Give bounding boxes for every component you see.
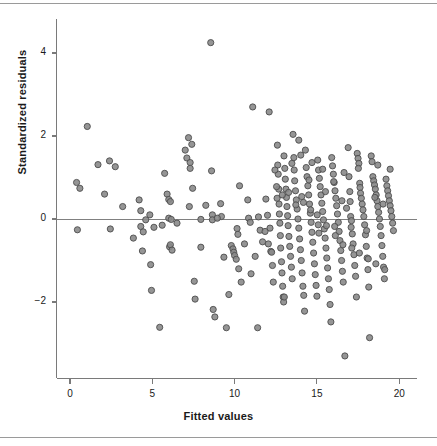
- scatter-point: [390, 228, 396, 234]
- scatter-point: [292, 188, 298, 194]
- scatter-point: [352, 262, 358, 268]
- scatter-point: [273, 184, 279, 190]
- scatter-point: [269, 249, 275, 255]
- scatter-point: [355, 165, 361, 171]
- scatter-point: [343, 205, 349, 211]
- x-axis-tick-label: 5: [140, 388, 164, 399]
- scatter-point: [363, 243, 369, 249]
- scatter-point: [298, 257, 304, 263]
- scatter-point: [290, 131, 296, 137]
- scatter-point: [182, 147, 188, 153]
- x-axis-tick-label: 15: [305, 388, 329, 399]
- scatter-point: [379, 242, 385, 248]
- x-axis-tick-label: 20: [387, 388, 411, 399]
- scatter-point: [292, 178, 298, 184]
- scatter-point: [285, 189, 291, 195]
- scatter-point: [198, 216, 204, 222]
- scatter-point: [274, 142, 280, 148]
- scatter-point: [299, 270, 305, 276]
- scatter-point: [325, 276, 331, 282]
- scatter-point: [234, 225, 240, 231]
- scatter-point: [323, 245, 329, 251]
- scatter-point: [368, 153, 374, 159]
- scatter-point: [265, 241, 271, 247]
- scatter-point: [365, 256, 371, 262]
- scatter-point: [372, 186, 378, 192]
- scatter-point: [338, 247, 344, 253]
- scatter-point: [347, 189, 353, 195]
- scatter-point: [322, 189, 328, 195]
- scatter-point: [276, 201, 282, 207]
- scatter-point: [255, 214, 261, 220]
- scatter-point: [269, 262, 275, 268]
- scatter-point: [212, 314, 218, 320]
- scatter-point: [266, 109, 272, 115]
- scatter-point: [324, 255, 330, 261]
- scatter-point: [221, 254, 227, 260]
- scatter-point: [382, 267, 388, 273]
- scatter-point: [301, 292, 307, 298]
- scatter-point: [353, 294, 359, 300]
- scatter-point: [264, 212, 270, 218]
- scatter-point: [190, 185, 196, 191]
- scatter-point: [226, 291, 232, 297]
- scatter-point: [373, 261, 379, 267]
- data-points-group: [73, 40, 396, 360]
- scatter-point: [272, 167, 278, 173]
- scatter-point: [369, 159, 375, 165]
- scatter-point: [362, 222, 368, 228]
- scatter-point: [376, 209, 382, 215]
- scatter-point: [313, 282, 319, 288]
- scatter-point: [357, 184, 363, 190]
- scatter-point: [298, 152, 304, 158]
- scatter-point: [157, 324, 163, 330]
- scatter-point: [287, 243, 293, 249]
- scatter-point: [323, 223, 329, 229]
- scatter-point: [372, 194, 378, 200]
- scatter-point: [316, 175, 322, 181]
- scatter-point: [300, 199, 306, 205]
- scatter-point: [331, 179, 337, 185]
- scatter-point: [262, 228, 268, 234]
- scatter-point: [208, 40, 214, 46]
- scatter-point: [308, 207, 314, 213]
- scatter-point: [189, 141, 195, 147]
- scatter-point: [388, 208, 394, 214]
- scatter-point: [316, 230, 322, 236]
- scatter-point: [151, 224, 157, 230]
- scatter-point: [169, 247, 175, 253]
- scatter-point: [349, 231, 355, 237]
- scatter-point: [279, 270, 285, 276]
- x-axis-tick-label: 10: [223, 388, 247, 399]
- scatter-point: [130, 235, 136, 241]
- scatter-point: [314, 212, 320, 218]
- scatter-point: [250, 104, 256, 110]
- scatter-point: [333, 195, 339, 201]
- scatter-point: [334, 211, 340, 217]
- scatter-point: [106, 158, 112, 164]
- scatter-point: [289, 160, 295, 166]
- scatter-point: [112, 164, 118, 170]
- scatter-point: [276, 211, 282, 217]
- scatter-point: [296, 137, 302, 143]
- scatter-point: [378, 233, 384, 239]
- scatter-point: [365, 267, 371, 273]
- scatter-point: [245, 197, 251, 203]
- scatter-point: [282, 165, 288, 171]
- scatter-point: [140, 229, 146, 235]
- scatter-point: [198, 244, 204, 250]
- scatter-point: [332, 233, 338, 239]
- scatter-point: [289, 276, 295, 282]
- scatter-point: [95, 162, 101, 168]
- scatter-point: [320, 217, 326, 223]
- scatter-point: [174, 220, 180, 226]
- scatter-point: [311, 250, 317, 256]
- scatter-point: [348, 224, 354, 230]
- scatter-point: [329, 154, 335, 160]
- scatter-point: [299, 193, 305, 199]
- scatter-point: [311, 261, 317, 267]
- scatter-point: [345, 145, 351, 151]
- scatter-point: [297, 236, 303, 242]
- scatter-point: [340, 279, 346, 285]
- scatter-point: [306, 177, 312, 183]
